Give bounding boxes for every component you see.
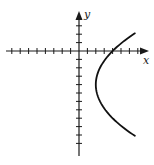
x-axis-label: x bbox=[143, 55, 149, 66]
y-axis-arrow-icon bbox=[76, 11, 83, 20]
y-axis-label: y bbox=[84, 9, 90, 20]
graph bbox=[0, 0, 154, 165]
